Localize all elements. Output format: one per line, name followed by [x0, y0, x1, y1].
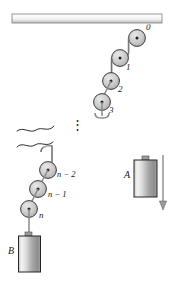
- block-a-label: A: [124, 170, 130, 180]
- block-b-label: B: [8, 246, 14, 256]
- pulley-3: [94, 94, 111, 116]
- left-rope-strands-upper: [23, 23, 41, 128]
- pulley-system-figure: 0 1 2 3 n − 2 n − 1 n A B ⋮: [0, 0, 173, 285]
- rope-over-pulley-n-minus-2: [41, 146, 52, 163]
- pulley-n-minus-1-label: n − 1: [48, 190, 67, 199]
- block-a: [134, 156, 157, 197]
- pulley-n-minus-1: [30, 181, 47, 203]
- pulley-3-label: 3: [109, 106, 114, 115]
- pulley-0-label: 0: [146, 23, 151, 32]
- ellipsis-continuation: ⋮: [71, 118, 84, 131]
- pulley-n-label: n: [39, 211, 44, 220]
- pulley-2-label: 2: [118, 85, 123, 94]
- block-b: [19, 232, 41, 272]
- pulley-n: [21, 201, 38, 234]
- pulley-n-minus-2: [40, 162, 57, 183]
- pulley-1-label: 1: [126, 63, 131, 72]
- pulley-n-minus-2-label: n − 2: [57, 170, 76, 179]
- pulley-0: [129, 30, 146, 47]
- pulley-2: [103, 73, 120, 95]
- figure-canvas: [0, 0, 173, 285]
- velocity-arrow-down: [159, 155, 166, 210]
- ceiling: [12, 14, 162, 23]
